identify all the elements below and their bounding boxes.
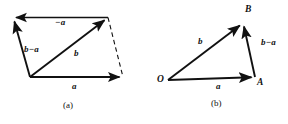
panel-a-dashed-edge (108, 18, 123, 78)
vector-subtraction-figure: −a b−a b a O A B b a b−a (a) (b) (0, 0, 288, 124)
panel-a-label-a: a (72, 82, 77, 91)
panel-a-label-minus-a: −a (55, 18, 65, 27)
panel-a-vector-b (30, 20, 105, 77)
panel-b-graphics (168, 26, 255, 81)
caption-b: (b) (211, 99, 222, 108)
panel-b-label-b: b (198, 37, 203, 46)
panel-b-vector-a (168, 77, 252, 80)
panel-a-label-b-minus-a: b−a (24, 45, 39, 54)
figure-canvas (0, 0, 288, 124)
caption-a: (a) (63, 101, 73, 110)
panel-b-label-a: a (216, 82, 221, 91)
panel-a-label-b: b (74, 49, 79, 58)
panel-b-point-label-a: A (257, 78, 263, 88)
panel-b-point-label-o: O (157, 75, 164, 85)
panel-b-point-label-b: B (245, 5, 251, 15)
panel-b-vector-b (168, 26, 240, 81)
panel-b-vector-b-minus-a (244, 27, 255, 78)
panel-b-label-b-minus-a: b−a (261, 38, 276, 47)
